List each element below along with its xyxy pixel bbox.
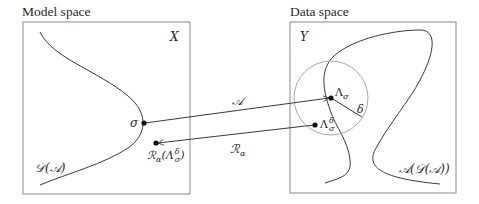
model-space-title: Model space xyxy=(22,5,91,19)
set-x-label: X xyxy=(170,31,179,43)
lambda-symbol: Λ xyxy=(335,86,343,99)
reconstruction-close: ) xyxy=(180,149,184,162)
inverse-operator-symbol: ℛ xyxy=(230,142,240,156)
lambda-sub: σ xyxy=(343,92,348,101)
radius-label: δ xyxy=(357,104,364,115)
data-curve xyxy=(324,30,440,184)
reconstruction-arg: (Λ xyxy=(161,149,173,162)
lambda-sigma-delta-label: Λδσ xyxy=(320,117,334,133)
lambda-delta-symbol: Λ xyxy=(320,118,328,131)
lambda-sigma-label: Λσ xyxy=(335,87,348,98)
set-y-label: Y xyxy=(300,31,308,43)
inverse-operator-sub: α xyxy=(240,149,245,158)
lambda-sigma-delta-point xyxy=(312,122,317,127)
sigma-label: σ xyxy=(130,117,138,129)
reconstruction-label: ℛα(Λδσ) xyxy=(147,148,184,164)
lambda-sigma-point xyxy=(328,95,333,100)
reconstruction-symbol: ℛ xyxy=(147,149,156,162)
inverse-arrow xyxy=(158,125,314,143)
lambda-delta-sub: σ xyxy=(329,125,334,133)
forward-operator-label: 𝒜 xyxy=(232,95,243,107)
reconstruction-point xyxy=(153,140,158,145)
data-curve-label: 𝒜(𝒟(𝒜)) xyxy=(399,163,450,175)
sigma-point xyxy=(141,120,146,125)
data-space-title: Data space xyxy=(290,5,349,19)
model-curve-label: 𝒟(𝒜) xyxy=(35,162,65,174)
inverse-operator-label: ℛα xyxy=(230,143,245,155)
